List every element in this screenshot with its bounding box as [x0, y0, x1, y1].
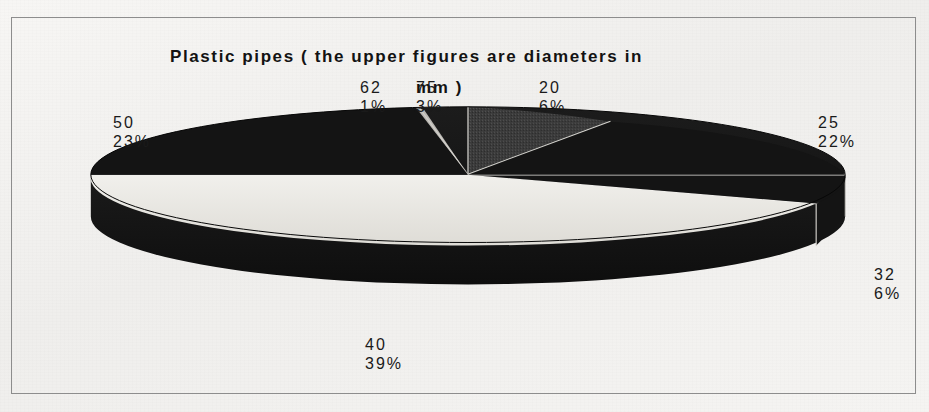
data-label-20-percent: 6% — [539, 97, 566, 116]
page-title: Plastic pipes ( the upper figures are di… — [170, 47, 643, 67]
data-label-32: 32 6% — [874, 265, 901, 303]
data-label-75-value: 75 — [416, 78, 443, 97]
data-label-40: 40 39% — [365, 335, 403, 373]
data-label-20: 20 6% — [539, 78, 566, 116]
data-label-62-value: 62 — [360, 78, 387, 97]
data-label-25-percent: 22% — [818, 132, 856, 151]
data-label-25-value: 25 — [818, 113, 856, 132]
data-label-75: 75 3% — [416, 78, 443, 116]
pie-chart-canvas — [12, 18, 915, 394]
data-label-40-value: 40 — [365, 335, 403, 354]
data-label-50: 50 23% — [113, 113, 151, 151]
data-label-75-percent: 3% — [416, 97, 443, 116]
data-label-40-percent: 39% — [365, 354, 403, 373]
data-label-50-percent: 23% — [113, 132, 151, 151]
chart-frame: Plastic pipes ( the upper figures are di… — [11, 17, 916, 394]
data-label-50-value: 50 — [113, 113, 151, 132]
data-label-32-value: 32 — [874, 265, 901, 284]
data-label-20-value: 20 — [539, 78, 566, 97]
data-label-25: 25 22% — [818, 113, 856, 151]
data-label-32-percent: 6% — [874, 284, 901, 303]
data-label-62: 62 1% — [360, 78, 387, 116]
data-label-62-percent: 1% — [360, 97, 387, 116]
